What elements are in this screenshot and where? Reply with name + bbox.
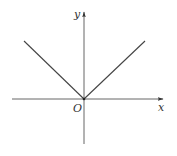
- origin-point: [83, 98, 86, 101]
- origin-label: O: [73, 102, 82, 115]
- graph-canvas: y x O: [0, 0, 177, 156]
- curve-right-branch: [84, 41, 145, 99]
- y-axis-label: y: [73, 8, 81, 21]
- curve-left-branch: [24, 41, 84, 99]
- x-axis-label: x: [158, 101, 165, 114]
